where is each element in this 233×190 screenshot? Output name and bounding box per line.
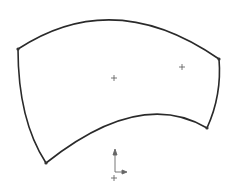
left-arc[interactable]	[18, 49, 46, 163]
sketch-canvas[interactable]	[0, 0, 233, 190]
vertex-point[interactable]	[217, 57, 220, 60]
bottom-arc[interactable]	[46, 114, 207, 163]
vertex-point[interactable]	[44, 161, 47, 164]
vertex-point[interactable]	[16, 47, 19, 50]
center-cross-icon[interactable]	[111, 75, 117, 81]
origin-cross-icon	[111, 175, 117, 181]
vertex-point[interactable]	[205, 126, 208, 129]
center-points	[111, 64, 185, 81]
top-arc[interactable]	[18, 20, 219, 59]
origin-axes-icon	[111, 149, 127, 181]
vertex-points	[16, 47, 220, 164]
right-arc[interactable]	[207, 59, 220, 128]
sketch-profile[interactable]	[18, 20, 220, 163]
center-cross-icon[interactable]	[179, 64, 185, 70]
